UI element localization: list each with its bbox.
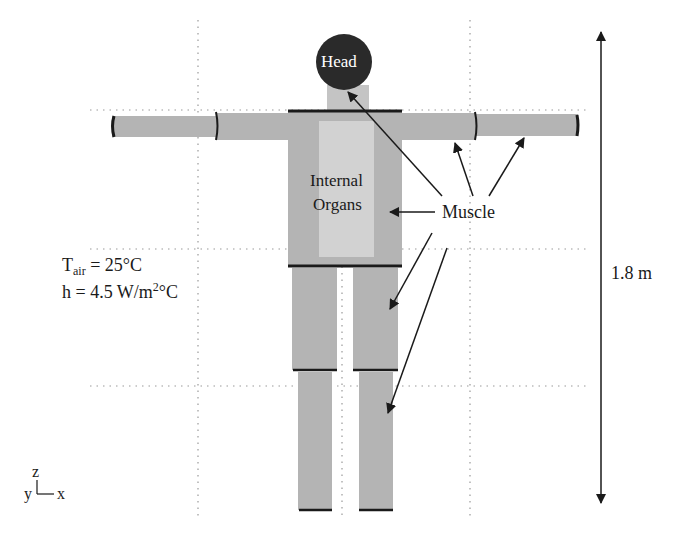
head-label: Head bbox=[321, 53, 357, 70]
axis-z-label: z bbox=[32, 464, 39, 480]
axis-triad-icon bbox=[37, 480, 54, 494]
right-thigh bbox=[353, 268, 398, 370]
left-upper-arm bbox=[216, 113, 290, 140]
left-arm bbox=[112, 112, 290, 140]
air-temperature-label: Tair = 25°C bbox=[62, 256, 142, 277]
right-upper-arm bbox=[398, 113, 475, 140]
right-arm bbox=[398, 112, 578, 140]
left-forearm bbox=[112, 116, 216, 137]
muscle-label: Muscle bbox=[442, 203, 495, 221]
internal-organs-label-line2: Organs bbox=[313, 196, 362, 213]
left-thigh bbox=[292, 268, 337, 370]
internal-organs-label-line1: Internal bbox=[310, 172, 363, 189]
right-shin bbox=[359, 372, 393, 510]
axis-x-label: x bbox=[57, 486, 65, 502]
axis-y-label: y bbox=[24, 486, 32, 502]
heat-transfer-coefficient-label: h = 4.5 W/m2°C bbox=[62, 281, 178, 301]
arrow-to-forearm bbox=[489, 138, 524, 196]
left-leg bbox=[292, 268, 337, 510]
left-shin bbox=[298, 372, 332, 510]
right-forearm bbox=[475, 114, 578, 136]
height-label: 1.8 m bbox=[611, 264, 652, 282]
right-leg bbox=[353, 268, 398, 510]
